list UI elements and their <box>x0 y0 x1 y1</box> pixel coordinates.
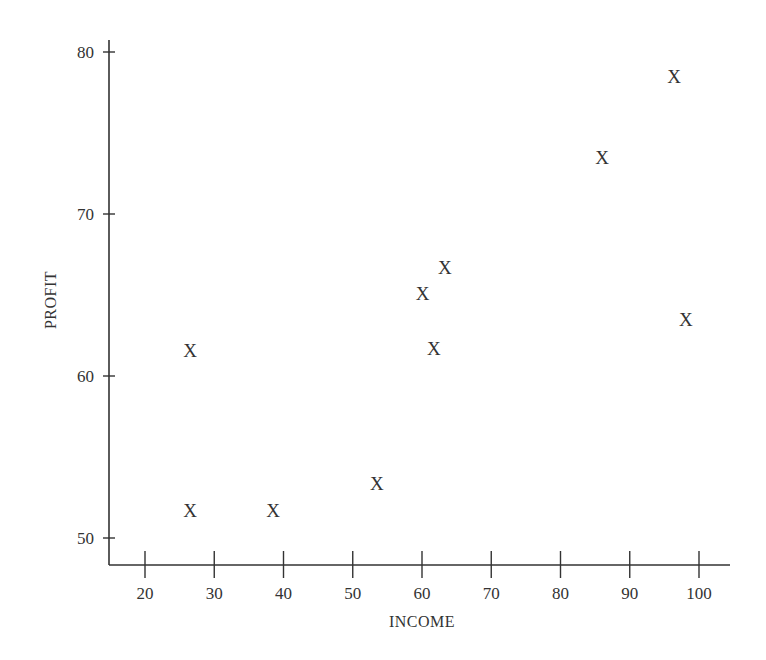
data-point-x-marker: X <box>183 340 197 361</box>
data-point-x-marker: X <box>427 338 441 359</box>
x-axis-title: INCOME <box>389 613 455 630</box>
scatter-chart: 50607080 2030405060708090100 INCOME PROF… <box>0 0 766 660</box>
data-point-x-marker: X <box>370 473 384 494</box>
x-tick-label: 80 <box>552 584 569 603</box>
y-tick-label: 60 <box>77 367 94 386</box>
data-point-x-marker: X <box>595 147 609 168</box>
y-axis-title: PROFIT <box>42 271 59 329</box>
x-tick-label: 70 <box>483 584 500 603</box>
x-tick-label: 60 <box>414 584 431 603</box>
x-tick-label: 30 <box>206 584 223 603</box>
y-tick-label: 50 <box>77 529 94 548</box>
data-point-x-marker: X <box>416 283 430 304</box>
x-tick-label: 100 <box>686 584 712 603</box>
x-tick-label: 90 <box>621 584 638 603</box>
data-point-x-marker: X <box>667 66 681 87</box>
y-tick-label: 70 <box>77 205 94 224</box>
y-tick-label: 80 <box>77 43 94 62</box>
data-point-x-marker: X <box>266 500 280 521</box>
data-point-x-marker: X <box>183 500 197 521</box>
data-point-x-marker: X <box>679 309 693 330</box>
data-point-x-marker: X <box>438 257 452 278</box>
x-tick-label: 40 <box>275 584 292 603</box>
x-tick-label: 20 <box>137 584 154 603</box>
x-tick-label: 50 <box>344 584 361 603</box>
data-points: XXXXXXXXXX <box>183 66 693 521</box>
x-ticks: 2030405060708090100 <box>137 551 712 603</box>
